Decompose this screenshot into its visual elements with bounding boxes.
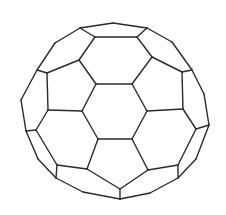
polyhedron-edge [196,125,209,159]
polyhedron-edge [183,109,196,129]
polyhedron-edge [120,170,148,189]
polyhedron-edge [87,139,98,169]
polyhedron-edge [178,159,196,178]
polyhedron-edge [80,28,95,37]
polyhedron-edge [132,57,152,84]
polyhedron-edge [132,111,147,139]
polyhedron-edge [147,28,172,42]
polyhedron-edge [80,23,113,28]
polyhedron-edge [87,169,120,189]
polyhedron-edge [132,84,147,111]
polyhedron-edge [38,159,56,178]
polyhedron-edge [57,165,87,169]
polyhedron-edge [21,70,37,100]
soccer-ball-diagram [0,0,226,215]
polyhedron-edge [48,110,82,111]
polyhedron-edge [79,60,96,84]
polyhedron-edge [37,70,47,73]
polyhedron-edge [192,70,204,94]
polyhedron-edge [82,111,98,139]
polyhedron-edge [120,193,150,199]
polyhedron-edge [79,37,95,60]
polyhedron-edge [182,70,192,72]
polyhedron-edge [82,84,96,111]
polyhedron-edge [36,110,48,130]
polyhedron-edge [21,100,26,131]
polyhedron-edge [37,43,55,70]
polyhedron-edge [55,28,80,43]
polyhedron-edge [26,131,38,159]
polyhedron-edge [150,178,178,193]
polyhedron-edge [26,130,36,131]
polyhedron-edge [113,23,147,28]
polyhedron-edge [132,139,148,170]
polyhedron-edge [137,28,147,37]
polyhedron-edge [56,165,57,178]
polyhedron-edge [182,72,183,109]
polyhedron-edge [178,129,196,165]
polyhedron-edge [83,192,120,199]
polyhedron-edge [47,73,48,110]
polyhedron-edge [172,42,192,70]
polyhedron-edge [152,57,182,72]
polyhedron-edge [147,109,183,111]
polyhedron-edge [47,60,79,73]
polyhedron-edge [56,178,83,192]
polyhedron-edge [204,94,209,125]
polyhedron-edge [137,37,152,57]
polyhedron-edge [148,165,178,170]
truncated-icosahedron-drawing [0,0,226,215]
